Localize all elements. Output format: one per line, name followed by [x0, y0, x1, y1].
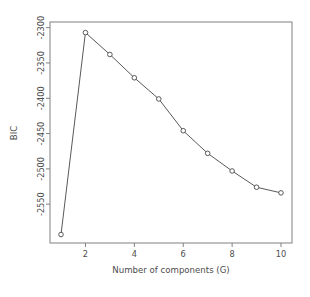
bic-chart: -2300-2350-2400-2450-2500-2550 246810 Nu…: [0, 0, 310, 297]
y-tick-label: -2400: [37, 86, 47, 110]
chart-canvas: -2300-2350-2400-2450-2500-2550 246810 Nu…: [0, 0, 310, 297]
data-point-marker: [59, 232, 64, 237]
x-tick-label: 2: [83, 249, 88, 259]
y-tick-label: -2450: [37, 122, 47, 146]
data-point-marker: [230, 169, 235, 174]
data-point-marker: [132, 75, 137, 80]
data-point-marker: [83, 30, 88, 35]
y-tick-label: -2500: [37, 157, 47, 181]
data-point-marker: [279, 191, 284, 196]
y-axis-title: BIC: [9, 126, 19, 140]
x-tick-label: 6: [181, 249, 186, 259]
data-point-marker: [156, 97, 161, 102]
y-tick-label: -2300: [37, 16, 47, 40]
data-point-marker: [181, 128, 186, 133]
x-tick-label: 4: [132, 249, 137, 259]
y-tick-label: -2550: [37, 192, 47, 216]
data-point-marker: [254, 185, 259, 190]
data-point-marker: [205, 151, 210, 156]
y-tick-label: -2350: [37, 51, 47, 75]
data-point-marker: [108, 52, 113, 57]
x-axis-title: Number of components (G): [112, 265, 229, 275]
x-tick-label: 10: [276, 249, 286, 259]
chart-background: [0, 0, 310, 297]
x-tick-label: 8: [230, 249, 235, 259]
